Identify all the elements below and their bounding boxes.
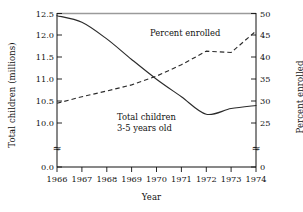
y-axis-left-ticklabels: 12.5 12.0 11.5 11.0 10.5 10.0 0.0 <box>36 9 54 173</box>
y-left-tick-10-0: 10.0 <box>36 118 54 128</box>
x-axis-ticklabels: 1966 1967 1968 1969 1970 1971 1972 1973 … <box>47 174 267 184</box>
y-right-tick-25: 25 <box>260 118 270 128</box>
y-right-tick-40: 40 <box>260 52 270 62</box>
x-tick-1968: 1968 <box>96 174 117 184</box>
y-left-tick-10-5: 10.5 <box>36 96 54 106</box>
y-axis-right-ticklabels: 50 45 40 35 30 25 0 <box>260 9 270 173</box>
annotation-percent-enrolled: Percent enrolled <box>150 28 221 38</box>
y-right-tick-0: 0 <box>260 162 265 172</box>
x-tick-1970: 1970 <box>146 174 167 184</box>
y-left-tick-11-5: 11.5 <box>36 52 54 62</box>
series-percent-enrolled-line <box>57 31 256 103</box>
x-tick-1972: 1972 <box>196 174 217 184</box>
y-right-tick-35: 35 <box>260 74 270 84</box>
y-axis-left-title: Total children (millions) <box>7 25 17 165</box>
x-tick-1966: 1966 <box>47 174 68 184</box>
plot-area: 12.5 12.0 11.5 11.0 10.5 10.0 0.0 ≈ 50 4… <box>0 0 303 212</box>
y-axis-right-title: Percent enrolled <box>295 27 303 167</box>
x-axis-ticks <box>57 167 256 172</box>
x-tick-1969: 1969 <box>121 174 142 184</box>
y-axis-left-break-symbol: ≈ <box>52 142 61 155</box>
chart-figure: Total children (millions) Percent enroll… <box>0 0 303 212</box>
y-left-tick-12-5: 12.5 <box>36 9 54 19</box>
annotation-total-children-line1: Total children <box>117 112 176 122</box>
y-axis-right-break-symbol: ≈ <box>251 142 260 155</box>
x-axis-title: Year <box>0 192 303 202</box>
x-tick-1971: 1971 <box>171 174 192 184</box>
x-tick-1973: 1973 <box>221 174 242 184</box>
y-right-tick-45: 45 <box>260 30 270 40</box>
x-tick-1967: 1967 <box>71 174 92 184</box>
annotation-total-children-line2: 3-5 years old <box>117 123 173 133</box>
y-right-tick-50: 50 <box>260 9 270 19</box>
y-left-tick-12-0: 12.0 <box>36 30 54 40</box>
y-right-tick-30: 30 <box>260 96 270 106</box>
y-left-tick-0-0: 0.0 <box>41 162 54 172</box>
x-tick-1974: 1974 <box>246 174 267 184</box>
y-left-tick-11-0: 11.0 <box>36 74 54 84</box>
